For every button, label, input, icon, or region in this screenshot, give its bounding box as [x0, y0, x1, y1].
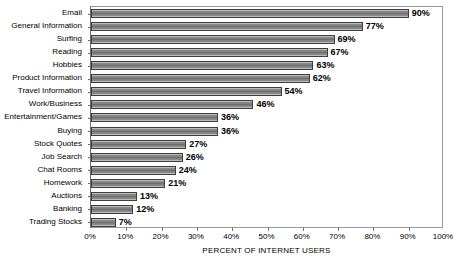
bar-row: 24%	[91, 164, 442, 177]
x-axis-tick-label: 0%	[84, 232, 96, 241]
bar-value-label: 54%	[285, 85, 303, 98]
bar	[91, 205, 133, 214]
category-label: Hobbies	[53, 58, 82, 71]
bar-row: 62%	[91, 72, 442, 85]
bar-value-label: 36%	[221, 125, 239, 138]
bar-value-label: 90%	[412, 7, 430, 20]
bar	[91, 127, 218, 136]
bar-row: 63%	[91, 59, 442, 72]
category-label: Entertainment/Games	[4, 110, 82, 123]
bar-row: 12%	[91, 203, 442, 216]
x-axis-tick-label: 50%	[258, 232, 274, 241]
x-axis-tick-label: 40%	[223, 232, 239, 241]
bar-row: 54%	[91, 85, 442, 98]
bar-value-label: 24%	[179, 164, 197, 177]
bar-row: 77%	[91, 20, 442, 33]
category-label: Stock Quotes	[34, 137, 82, 150]
bar-row: 21%	[91, 177, 442, 190]
x-axis-tick-label: 70%	[329, 232, 345, 241]
category-label: Product Information	[12, 71, 82, 84]
category-label: Work/Business	[29, 97, 82, 110]
bar	[91, 100, 253, 109]
bar	[91, 9, 409, 18]
bar	[91, 35, 335, 44]
category-label: Homework	[44, 176, 82, 189]
bar-row: 36%	[91, 111, 442, 124]
bar	[91, 22, 363, 31]
bar	[91, 140, 186, 149]
bar-value-label: 13%	[140, 190, 158, 203]
bar	[91, 113, 218, 122]
bar-row: 7%	[91, 216, 442, 229]
x-axis-tick	[197, 227, 198, 231]
x-axis-tick	[303, 227, 304, 231]
category-label: Email	[62, 6, 82, 19]
x-axis-tick-label: 20%	[153, 232, 169, 241]
category-label: Banking	[53, 202, 82, 215]
category-label: General Information	[11, 19, 82, 32]
bar-row: 67%	[91, 46, 442, 59]
bar-value-label: 77%	[366, 20, 384, 33]
x-axis-tick-label: 30%	[188, 232, 204, 241]
x-axis-tick	[162, 227, 163, 231]
bar-row: 26%	[91, 151, 442, 164]
category-label: Surfing	[57, 32, 82, 45]
bar-value-label: 62%	[313, 72, 331, 85]
category-label: Job Search	[42, 150, 82, 163]
x-axis-tick-label: 10%	[117, 232, 133, 241]
x-axis-tick	[409, 227, 410, 231]
bar	[91, 218, 116, 227]
bar-value-label: 36%	[221, 111, 239, 124]
bar-value-label: 26%	[186, 151, 204, 164]
category-label: Travel Information	[18, 84, 82, 97]
x-axis-tick-label: 80%	[364, 232, 380, 241]
x-axis-tick-label: 60%	[294, 232, 310, 241]
category-axis-labels: EmailGeneral InformationSurfingReadingHo…	[0, 6, 86, 228]
bar	[91, 179, 165, 188]
bar	[91, 61, 313, 70]
plot-area: 90%77%69%67%63%62%54%46%36%36%27%26%24%2…	[90, 6, 443, 228]
x-axis-title: PERCENT OF INTERNET USERS	[90, 246, 443, 255]
bar-row: 27%	[91, 138, 442, 151]
bar-chart: EmailGeneral InformationSurfingReadingHo…	[0, 0, 466, 266]
bar	[91, 48, 328, 57]
x-axis-tick	[338, 227, 339, 231]
bar	[91, 74, 310, 83]
x-axis-tick	[373, 227, 374, 231]
bar	[91, 192, 137, 201]
bar-value-label: 63%	[316, 59, 334, 72]
bar-row: 90%	[91, 7, 442, 20]
bar-row: 46%	[91, 98, 442, 111]
bar-row: 13%	[91, 190, 442, 203]
bar-value-label: 69%	[338, 33, 356, 46]
bar-value-label: 21%	[168, 177, 186, 190]
bar-row: 36%	[91, 125, 442, 138]
category-label: Buying	[58, 124, 82, 137]
x-axis-tick-label: 100%	[433, 232, 453, 241]
bar-value-label: 12%	[136, 203, 154, 216]
category-label: Chat Rooms	[38, 163, 82, 176]
x-axis-tick	[126, 227, 127, 231]
x-axis-tick-label: 90%	[400, 232, 416, 241]
category-label: Trading Stocks	[29, 215, 82, 228]
x-axis-tick	[232, 227, 233, 231]
category-label: Reading	[52, 45, 82, 58]
bar	[91, 153, 183, 162]
bar-value-label: 67%	[331, 46, 349, 59]
bar-value-label: 27%	[189, 138, 207, 151]
category-label: Auctions	[51, 189, 82, 202]
bar-value-label: 7%	[119, 216, 132, 229]
bar	[91, 87, 282, 96]
bar	[91, 166, 176, 175]
x-axis-tick	[268, 227, 269, 231]
bar-row: 69%	[91, 33, 442, 46]
bar-value-label: 46%	[256, 98, 274, 111]
